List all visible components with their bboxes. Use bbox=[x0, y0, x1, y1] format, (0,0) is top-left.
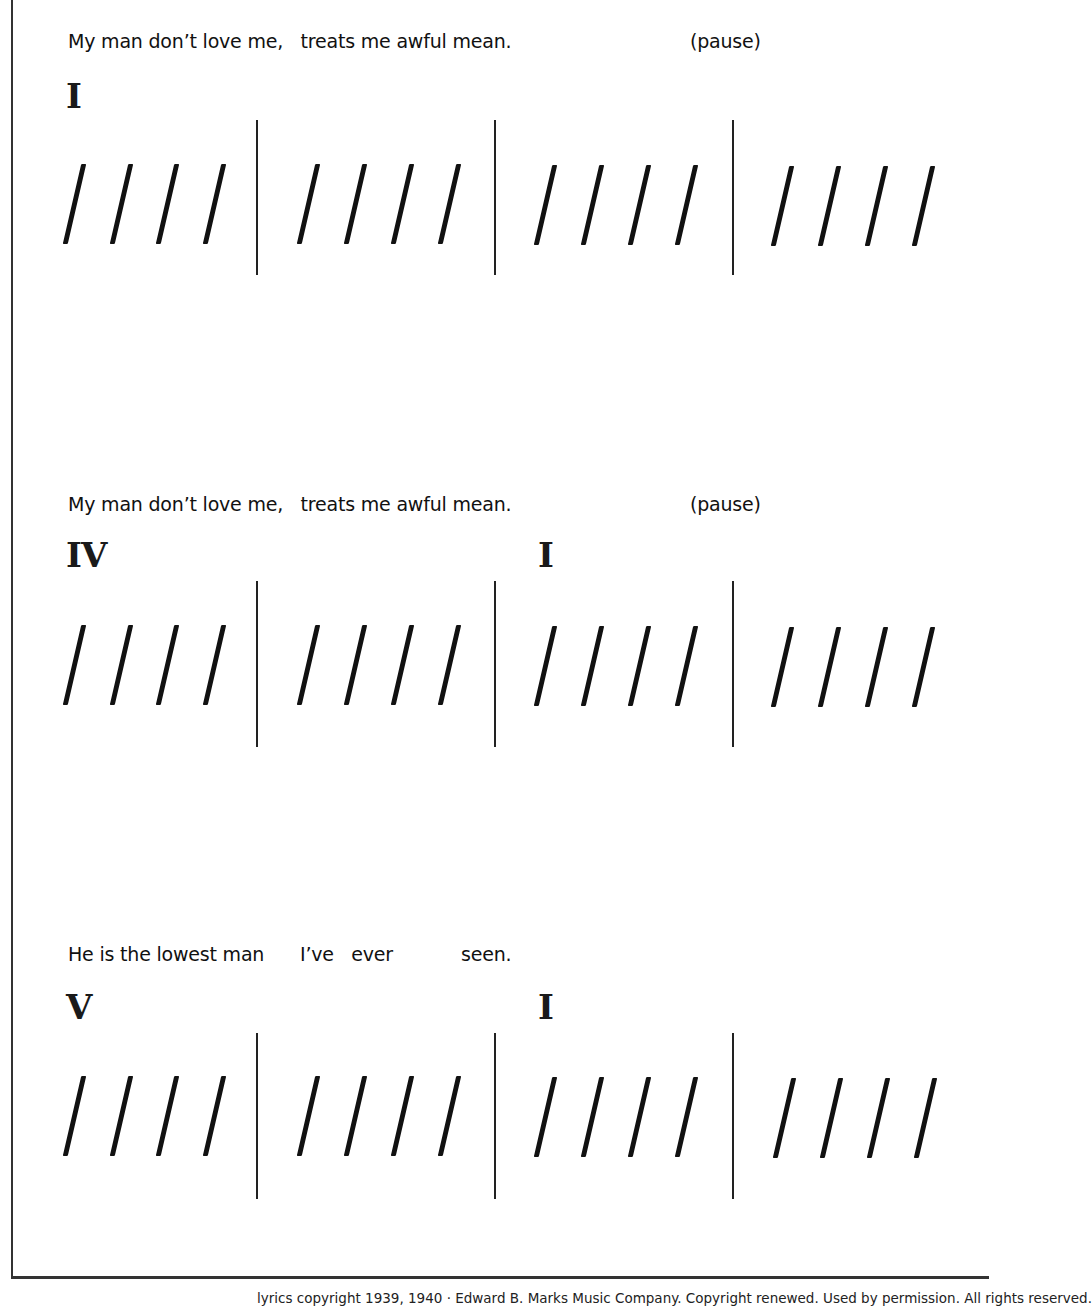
beat-slash bbox=[203, 164, 226, 244]
beat-slash bbox=[63, 1076, 86, 1156]
beat-slash bbox=[867, 1078, 890, 1158]
beat-slash bbox=[534, 626, 557, 706]
pause-marking: (pause) bbox=[690, 493, 761, 515]
chord-symbol: I bbox=[538, 987, 553, 1027]
beat-slash bbox=[63, 625, 86, 705]
beat-slash bbox=[203, 625, 226, 705]
barline bbox=[732, 120, 734, 275]
beat-slash bbox=[628, 626, 651, 706]
lyric-line: I’ve ever bbox=[300, 943, 393, 965]
page-frame-bottom bbox=[11, 1276, 989, 1279]
beat-slash bbox=[297, 1076, 320, 1156]
system-2: My man don’t love me, treats me awful me… bbox=[0, 493, 989, 793]
beat-slash bbox=[438, 164, 461, 244]
beat-slash bbox=[391, 164, 414, 244]
barline bbox=[494, 1033, 496, 1199]
beat-slash bbox=[581, 1077, 604, 1157]
lyric-line: My man don’t love me, treats me awful me… bbox=[68, 493, 511, 515]
beat-slash bbox=[297, 625, 320, 705]
beat-slash bbox=[156, 164, 179, 244]
system-3: He is the lowest man I’ve ever seen. V I bbox=[0, 943, 989, 1243]
chord-symbol: I bbox=[66, 76, 81, 116]
beat-slash bbox=[865, 166, 888, 246]
beat-slash bbox=[771, 627, 794, 707]
beat-slash bbox=[63, 164, 86, 244]
beat-slash bbox=[865, 627, 888, 707]
beat-slash bbox=[675, 626, 698, 706]
beat-slash bbox=[818, 166, 841, 246]
beat-slash bbox=[344, 164, 367, 244]
beat-slash bbox=[818, 627, 841, 707]
beat-slash bbox=[391, 625, 414, 705]
beat-slash bbox=[344, 1076, 367, 1156]
beat-slash bbox=[912, 627, 935, 707]
system-1: My man don’t love me, treats me awful me… bbox=[0, 30, 989, 330]
beat-slash bbox=[628, 165, 651, 245]
barline bbox=[256, 581, 258, 747]
beat-slash bbox=[156, 625, 179, 705]
beat-slash bbox=[912, 166, 935, 246]
beat-slash bbox=[534, 165, 557, 245]
beat-slash bbox=[771, 166, 794, 246]
beat-slash bbox=[110, 625, 133, 705]
beat-slash bbox=[628, 1077, 651, 1157]
beat-slash bbox=[773, 1078, 796, 1158]
beat-slash bbox=[820, 1078, 843, 1158]
beat-slash bbox=[297, 164, 320, 244]
beat-slash bbox=[675, 1077, 698, 1157]
barline bbox=[494, 581, 496, 747]
beat-slash bbox=[110, 1076, 133, 1156]
beat-slash bbox=[391, 1076, 414, 1156]
beat-slash bbox=[203, 1076, 226, 1156]
beat-slash bbox=[534, 1077, 557, 1157]
copyright-notice: lyrics copyright 1939, 1940 · Edward B. … bbox=[257, 1290, 1092, 1306]
beat-slash bbox=[581, 626, 604, 706]
lyric-line: He is the lowest man bbox=[68, 943, 264, 965]
lyric-line: My man don’t love me, treats me awful me… bbox=[68, 30, 511, 52]
barline bbox=[732, 581, 734, 747]
beat-slash bbox=[110, 164, 133, 244]
beat-slash bbox=[581, 165, 604, 245]
beat-slash bbox=[156, 1076, 179, 1156]
beat-slash bbox=[438, 1076, 461, 1156]
chord-symbol: IV bbox=[66, 535, 106, 575]
barline bbox=[732, 1033, 734, 1199]
barline bbox=[494, 120, 496, 275]
beat-slash bbox=[438, 625, 461, 705]
pause-marking: (pause) bbox=[690, 30, 761, 52]
beat-slash bbox=[675, 165, 698, 245]
chord-symbol: I bbox=[538, 535, 553, 575]
lyric-line: seen. bbox=[461, 943, 511, 965]
barline bbox=[256, 1033, 258, 1199]
barline bbox=[256, 120, 258, 275]
beat-slash bbox=[914, 1078, 937, 1158]
chord-symbol: V bbox=[66, 987, 91, 1027]
beat-slash bbox=[344, 625, 367, 705]
